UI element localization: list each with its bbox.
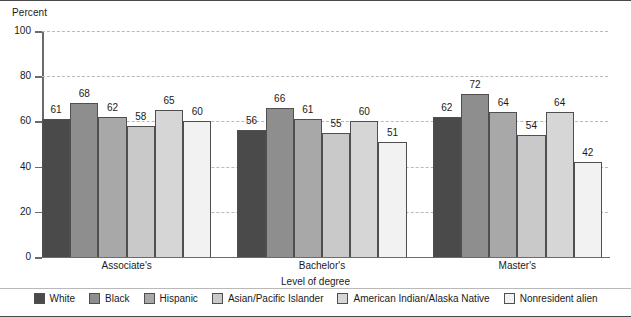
chart-legend: WhiteBlackHispanicAsian/Pacific Islander… [0, 293, 631, 304]
bar[interactable]: 65 [155, 110, 183, 257]
y-tick-mark [35, 76, 42, 78]
bar-value-label: 61 [51, 105, 62, 115]
chart-figure: Percent 020406080100 6168625865605666615… [0, 0, 631, 317]
bar-value-label: 58 [135, 112, 146, 122]
bar[interactable]: 72 [461, 94, 489, 257]
legend-label: Hispanic [160, 293, 198, 304]
bar-value-label: 64 [554, 98, 565, 108]
legend-label: Asian/Pacific Islander [228, 293, 324, 304]
legend-label: White [50, 293, 76, 304]
group-label: Bachelor's [237, 260, 406, 271]
legend-label: American Indian/Alaska Native [353, 293, 489, 304]
y-axis-title: Percent [12, 7, 47, 18]
y-tick-mark [35, 167, 42, 169]
bar-value-label: 72 [469, 80, 480, 90]
bar-series-area: 616862586560566661556051627264546442 [42, 31, 608, 257]
bar-group: 616862586560 [42, 31, 211, 257]
bar[interactable]: 42 [574, 162, 602, 257]
bar-value-label: 54 [526, 121, 537, 131]
legend-swatch [89, 293, 100, 304]
bar[interactable]: 62 [98, 117, 126, 257]
y-tick-label: 100 [0, 26, 31, 36]
bar-value-label: 60 [359, 107, 370, 117]
bar[interactable]: 51 [378, 142, 406, 257]
bar-value-label: 68 [79, 89, 90, 99]
bar[interactable]: 64 [489, 112, 517, 257]
bar[interactable]: 56 [237, 130, 265, 257]
legend-swatch [34, 293, 45, 304]
bar-value-label: 64 [498, 98, 509, 108]
y-tick-label: 80 [0, 71, 31, 81]
bar[interactable]: 60 [350, 121, 378, 257]
bar-value-label: 42 [582, 148, 593, 158]
bar[interactable]: 66 [266, 108, 294, 257]
bar[interactable]: 68 [70, 103, 98, 257]
bar-group: 627264546442 [433, 31, 602, 257]
legend-item[interactable]: Black [89, 293, 129, 304]
group-label: Master's [433, 260, 602, 271]
x-axis-title: Level of degree [0, 276, 631, 287]
bar-value-label: 66 [274, 94, 285, 104]
legend-item[interactable]: White [34, 293, 76, 304]
bar-value-label: 60 [192, 107, 203, 117]
bar-value-label: 62 [107, 103, 118, 113]
legend-item[interactable]: Asian/Pacific Islander [212, 293, 324, 304]
bar[interactable]: 62 [433, 117, 461, 257]
y-tick-mark [35, 121, 42, 123]
bar[interactable]: 61 [42, 119, 70, 257]
legend-item[interactable]: Nonresident alien [504, 293, 598, 304]
bar-value-label: 65 [163, 96, 174, 106]
bar[interactable]: 61 [294, 119, 322, 257]
y-tick-label: 40 [0, 162, 31, 172]
bar-value-label: 62 [441, 103, 452, 113]
legend-divider [0, 288, 631, 289]
legend-swatch [337, 293, 348, 304]
group-label: Associate's [42, 260, 211, 271]
y-tick-mark [35, 257, 42, 259]
y-tick-label: 60 [0, 116, 31, 126]
bar[interactable]: 55 [322, 133, 350, 257]
legend-swatch [144, 293, 155, 304]
y-tick-label: 20 [0, 207, 31, 217]
legend-swatch [504, 293, 515, 304]
y-tick-mark [35, 212, 42, 214]
legend-item[interactable]: American Indian/Alaska Native [337, 293, 489, 304]
legend-swatch [212, 293, 223, 304]
bar-value-label: 56 [246, 116, 257, 126]
bar[interactable]: 64 [546, 112, 574, 257]
legend-item[interactable]: Hispanic [144, 293, 198, 304]
legend-label: Nonresident alien [520, 293, 598, 304]
legend-label: Black [105, 293, 129, 304]
y-tick-mark [35, 31, 42, 33]
y-tick-label: 0 [0, 252, 31, 262]
bar-value-label: 55 [331, 119, 342, 129]
bar-value-label: 51 [387, 128, 398, 138]
bar-value-label: 61 [302, 105, 313, 115]
bar[interactable]: 60 [183, 121, 211, 257]
bar-group: 566661556051 [237, 31, 406, 257]
bar[interactable]: 54 [517, 135, 545, 257]
bar[interactable]: 58 [127, 126, 155, 257]
